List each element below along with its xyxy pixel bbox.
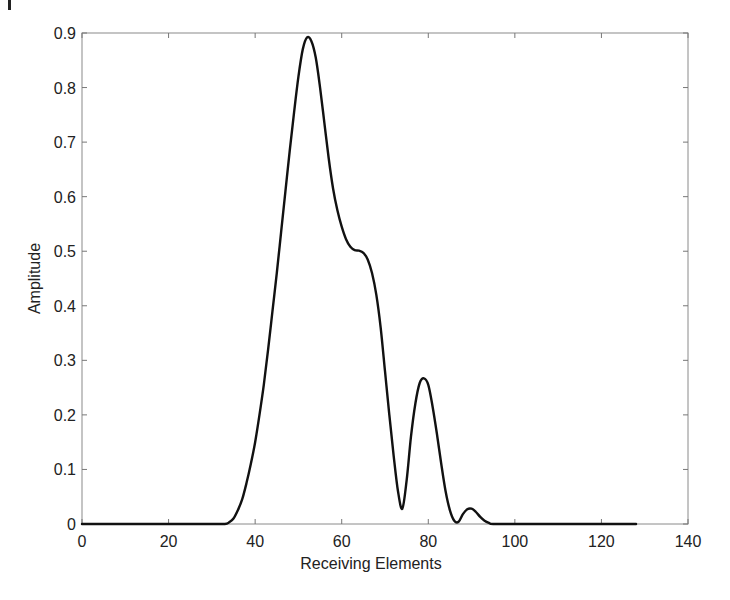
- x-tick-label: 20: [160, 533, 178, 550]
- x-axis: 020406080100120140: [78, 33, 702, 550]
- x-tick-label: 0: [78, 533, 87, 550]
- x-tick-label: 100: [502, 533, 529, 550]
- y-axis: 00.10.20.30.40.50.60.70.80.9: [54, 25, 688, 533]
- x-axis-label: Receiving Elements: [300, 555, 441, 572]
- x-tick-label: 140: [675, 533, 702, 550]
- y-tick-label: 0.2: [54, 407, 76, 424]
- y-tick-label: 0.8: [54, 80, 76, 97]
- plot-frame: [82, 33, 688, 524]
- y-tick-label: 0.4: [54, 298, 76, 315]
- y-tick-label: 0.5: [54, 243, 76, 260]
- y-tick-label: 0.1: [54, 461, 76, 478]
- x-tick-label: 40: [246, 533, 264, 550]
- y-tick-label: 0: [67, 516, 76, 533]
- y-axis-label: Amplitude: [26, 243, 43, 314]
- x-tick-label: 80: [419, 533, 437, 550]
- x-tick-label: 60: [333, 533, 351, 550]
- chart: 020406080100120140 00.10.20.30.40.50.60.…: [0, 0, 730, 600]
- y-tick-label: 0.7: [54, 134, 76, 151]
- y-tick-label: 0.6: [54, 189, 76, 206]
- y-tick-label: 0.9: [54, 25, 76, 42]
- axes-box: [82, 33, 688, 524]
- series-line-amplitude: [82, 37, 636, 524]
- x-tick-label: 120: [588, 533, 615, 550]
- series-group: [82, 37, 636, 524]
- y-tick-label: 0.3: [54, 352, 76, 369]
